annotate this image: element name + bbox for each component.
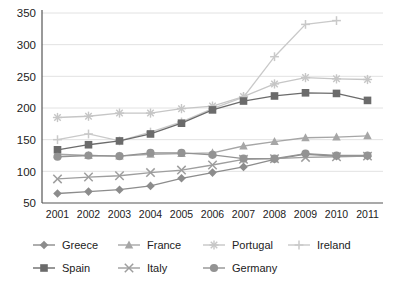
x-tick-label: 2008 xyxy=(263,208,287,220)
data-point-diamond-marker xyxy=(84,187,93,196)
data-point-square-marker xyxy=(333,90,341,98)
y-tick-label: 350 xyxy=(17,7,36,19)
data-point-circle-marker xyxy=(332,151,340,159)
data-point-square-marker xyxy=(240,97,248,105)
data-point-asterisk-marker xyxy=(332,74,341,83)
data-point-square-marker xyxy=(54,146,62,154)
legend-item-italy[interactable]: Italy xyxy=(118,262,168,274)
x-tick-label: 2005 xyxy=(170,208,194,220)
chart-legend: GreeceFrancePortugalIrelandSpainItalyGer… xyxy=(33,239,351,274)
data-point-asterisk-marker xyxy=(53,113,62,122)
data-point-asterisk-marker xyxy=(270,79,279,88)
series-spain xyxy=(54,89,372,154)
data-point-circle-marker xyxy=(84,151,92,159)
x-tick-label: 2007 xyxy=(232,208,256,220)
data-point-diamond-marker xyxy=(115,185,124,194)
data-point-circle-marker xyxy=(208,151,216,159)
legend-item-greece[interactable]: Greece xyxy=(33,239,98,251)
grid-lines xyxy=(42,13,383,171)
legend-item-france[interactable]: France xyxy=(118,239,181,251)
data-point-diamond-marker xyxy=(146,182,155,191)
series-line xyxy=(58,93,368,150)
data-point-triangle-marker xyxy=(363,131,371,139)
x-tick-labels: 2001200220032004200520062007200820092010… xyxy=(46,208,379,220)
data-point-circle-marker xyxy=(239,155,247,163)
data-point-circle-marker xyxy=(210,264,218,272)
y-tick-label: 50 xyxy=(23,197,36,209)
data-point-asterisk-marker xyxy=(301,73,310,82)
data-point-diamond-marker xyxy=(208,168,217,177)
data-point-plus-marker xyxy=(332,16,341,25)
y-tick-label: 250 xyxy=(17,71,36,83)
x-tick-label: 2011 xyxy=(356,208,379,220)
data-point-square-marker xyxy=(209,106,217,114)
x-tick-label: 2004 xyxy=(139,208,163,220)
data-point-plus-marker xyxy=(295,241,304,250)
legend-label: Germany xyxy=(232,262,278,274)
data-point-plus-marker xyxy=(84,130,93,139)
data-point-square-marker xyxy=(178,119,186,127)
x-tick-label: 2003 xyxy=(108,208,132,220)
data-point-asterisk-marker xyxy=(363,75,372,84)
data-point-square-marker xyxy=(271,92,279,100)
data-point-diamond-marker xyxy=(40,241,49,250)
legend-label: Portugal xyxy=(232,239,273,251)
y-tick-label: 100 xyxy=(17,166,36,178)
data-point-square-marker xyxy=(364,97,372,105)
legend-item-spain[interactable]: Spain xyxy=(33,262,90,274)
legend-item-germany[interactable]: Germany xyxy=(203,262,278,274)
data-point-diamond-marker xyxy=(53,189,62,198)
series-ireland xyxy=(53,16,341,145)
data-point-circle-marker xyxy=(301,150,309,158)
x-tick-label: 2001 xyxy=(46,208,70,220)
legend-label: Ireland xyxy=(317,239,351,251)
legend-label: France xyxy=(147,239,181,251)
data-point-square-marker xyxy=(116,137,124,145)
legend-label: Italy xyxy=(147,262,168,274)
data-point-diamond-marker xyxy=(177,174,186,183)
data-point-asterisk-marker xyxy=(146,108,155,117)
series-portugal xyxy=(53,73,372,122)
data-point-circle-marker xyxy=(53,153,61,161)
x-tick-label: 2009 xyxy=(294,208,318,220)
legend-item-portugal[interactable]: Portugal xyxy=(203,239,273,251)
data-series-group xyxy=(53,16,372,198)
x-tick-label: 2010 xyxy=(325,208,349,220)
data-point-square-marker xyxy=(302,89,310,97)
data-point-circle-marker xyxy=(177,149,185,157)
data-point-diamond-marker xyxy=(239,163,248,172)
y-tick-label: 200 xyxy=(17,102,36,114)
data-point-circle-marker xyxy=(115,152,123,160)
series-line xyxy=(58,21,337,141)
y-tick-labels: 50100150200250300350 xyxy=(17,7,36,209)
data-point-circle-marker xyxy=(146,149,154,157)
x-tick-label: 2002 xyxy=(77,208,101,220)
data-point-circle-marker xyxy=(270,155,278,163)
legend-label: Spain xyxy=(62,262,90,274)
legend-label: Greece xyxy=(62,239,98,251)
data-point-square-marker xyxy=(40,264,48,272)
y-tick-label: 150 xyxy=(17,134,36,146)
legend-item-ireland[interactable]: Ireland xyxy=(288,239,351,251)
data-point-asterisk-marker xyxy=(84,112,93,121)
data-point-square-marker xyxy=(147,130,155,138)
chart-canvas: 50100150200250300350 2001200220032004200… xyxy=(0,0,400,291)
x-tick-label: 2006 xyxy=(201,208,225,220)
data-point-asterisk-marker xyxy=(177,104,186,113)
y-tick-label: 300 xyxy=(17,39,36,51)
line-chart: 50100150200250300350 2001200220032004200… xyxy=(0,0,400,291)
data-point-circle-marker xyxy=(363,151,371,159)
data-point-plus-marker xyxy=(53,135,62,144)
data-point-square-marker xyxy=(85,141,93,149)
data-point-asterisk-marker xyxy=(115,108,124,117)
data-point-asterisk-marker xyxy=(209,240,218,249)
